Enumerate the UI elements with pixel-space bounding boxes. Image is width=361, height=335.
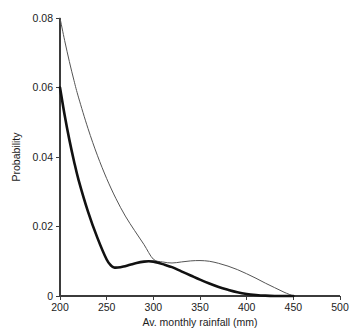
x-tick-label: 200 [51, 301, 69, 313]
x-tick-label: 450 [285, 301, 303, 313]
probability-density-chart: 00.020.040.060.08200250300350400450500 A… [0, 0, 361, 335]
y-tick-label: 0.08 [33, 12, 54, 24]
y-tick-label: 0 [47, 290, 53, 302]
x-axis-title: Av. monthly rainfall (mm) [142, 316, 257, 328]
x-tick-label: 350 [191, 301, 209, 313]
y-tick-label: 0.06 [33, 81, 54, 93]
figure-container: 00.020.040.060.08200250300350400450500 A… [0, 0, 361, 335]
x-tick-label: 300 [145, 301, 163, 313]
curve-thin-curve [60, 18, 293, 296]
x-tick-label: 400 [238, 301, 256, 313]
axes [60, 18, 340, 296]
curve-thick-curve [60, 88, 293, 297]
x-tick-label: 250 [98, 301, 116, 313]
tick-labels: 00.020.040.060.08200250300350400450500 [33, 12, 349, 313]
y-tick-label: 0.04 [33, 151, 54, 163]
y-axis-title: Probability [10, 132, 22, 182]
data-curves [60, 18, 293, 296]
y-tick-label: 0.02 [33, 220, 54, 232]
x-tick-label: 500 [331, 301, 349, 313]
